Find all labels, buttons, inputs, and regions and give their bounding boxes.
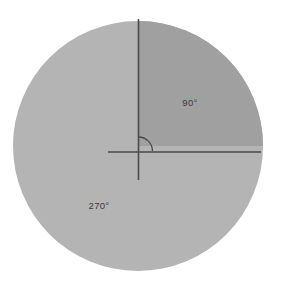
circle-angle-diagram: 90° 270° [0,0,283,290]
angle-label-270: 270° [89,200,110,211]
angle-label-90: 90° [182,97,197,108]
angle-diagram-figure: 90° 270° [0,0,283,290]
